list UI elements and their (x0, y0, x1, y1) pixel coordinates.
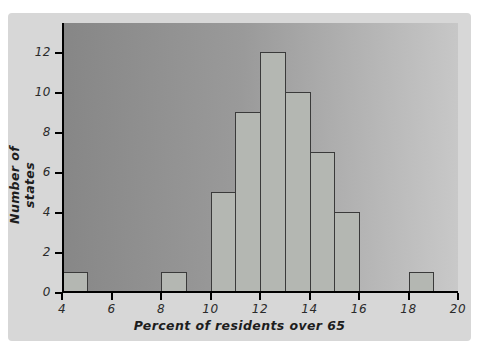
x-tick-label: 12 (245, 302, 275, 316)
histogram-bar (285, 92, 311, 293)
y-tick-label: 0 (25, 285, 51, 299)
x-tick-label: 4 (47, 302, 77, 316)
x-tick-label: 8 (146, 302, 176, 316)
figure-canvas: Percent of residents over 65 Number of s… (0, 0, 488, 356)
histogram-bar (310, 152, 336, 293)
x-tick-mark (408, 293, 410, 300)
x-tick-mark (259, 293, 261, 300)
x-tick-label: 18 (394, 302, 424, 316)
y-tick-label: 4 (25, 205, 51, 219)
x-tick-mark (457, 293, 459, 300)
x-tick-mark (61, 293, 63, 300)
x-tick-label: 20 (443, 302, 473, 316)
y-tick-label: 6 (25, 165, 51, 179)
y-tick-mark (55, 52, 62, 54)
y-tick-mark (55, 172, 62, 174)
y-tick-mark (55, 92, 62, 94)
y-tick-mark (55, 292, 62, 294)
histogram-bar (334, 212, 360, 293)
x-tick-mark (309, 293, 311, 300)
y-tick-mark (55, 212, 62, 214)
histogram-bar (161, 272, 187, 293)
x-tick-mark (358, 293, 360, 300)
x-tick-mark (111, 293, 113, 300)
x-tick-mark (210, 293, 212, 300)
x-tick-label: 10 (196, 302, 226, 316)
histogram-bar (260, 52, 286, 293)
y-tick-label: 10 (25, 85, 51, 99)
y-axis-title: Number of states (7, 125, 37, 245)
y-tick-label: 8 (25, 125, 51, 139)
x-tick-label: 6 (97, 302, 127, 316)
histogram-bar (409, 272, 435, 293)
plot-area (62, 23, 458, 293)
y-tick-mark (55, 132, 62, 134)
x-tick-label: 16 (344, 302, 374, 316)
y-axis-line (62, 23, 64, 293)
y-tick-mark (55, 252, 62, 254)
y-tick-label: 2 (25, 245, 51, 259)
y-tick-label: 12 (25, 45, 51, 59)
x-tick-label: 14 (295, 302, 325, 316)
histogram-bar (235, 112, 261, 293)
histogram-bar (211, 192, 237, 293)
x-tick-mark (160, 293, 162, 300)
x-axis-title: Percent of residents over 65 (8, 318, 471, 333)
histogram-bar (62, 272, 88, 293)
chart-panel: Percent of residents over 65 Number of s… (8, 13, 471, 341)
